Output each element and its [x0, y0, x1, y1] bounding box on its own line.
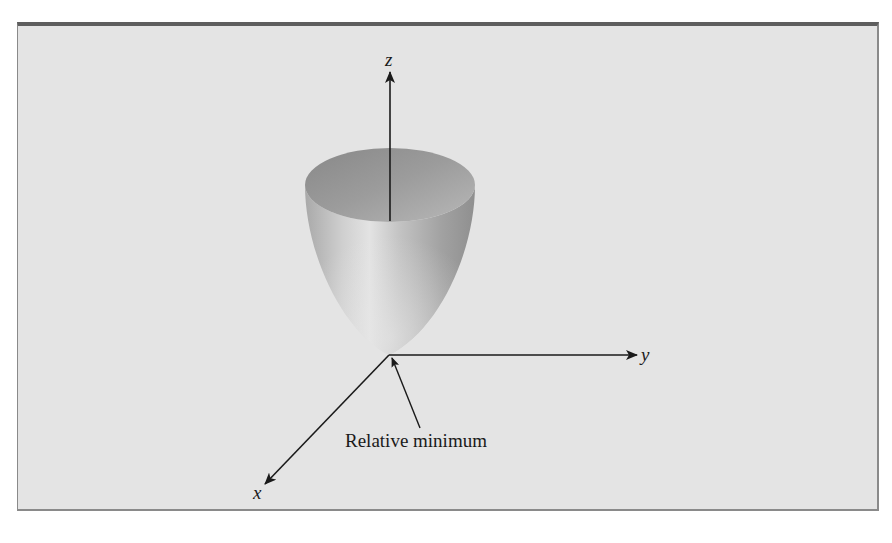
y-axis-label: y [639, 344, 650, 365]
relative-minimum-pointer [392, 358, 420, 428]
paraboloid-diagram: z y x Relative minimum [0, 0, 892, 543]
relative-minimum-label: Relative minimum [345, 430, 487, 451]
x-axis-label: x [252, 482, 262, 503]
page: z y x Relative minimum [0, 0, 892, 543]
x-axis [265, 355, 389, 484]
z-axis-label: z [384, 49, 393, 70]
